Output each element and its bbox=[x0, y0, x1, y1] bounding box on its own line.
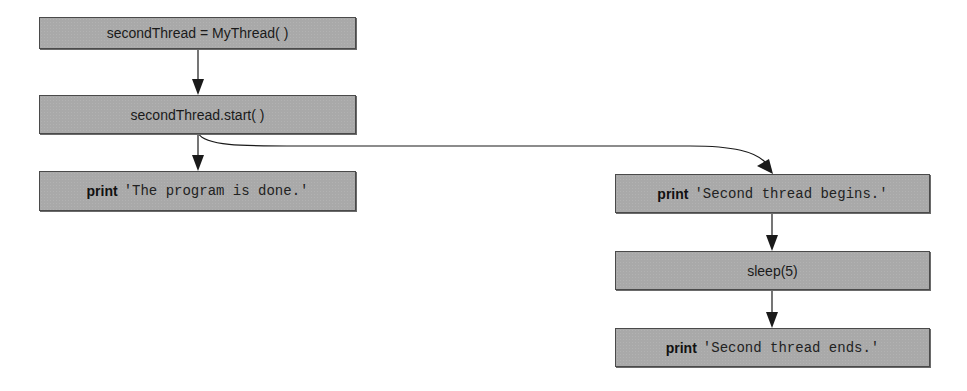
arrow-n5-n6 bbox=[766, 291, 778, 328]
node-text: sleep(5) bbox=[747, 263, 798, 279]
node-text: secondThread.start( ) bbox=[131, 107, 265, 123]
print-string: 'Second thread ends.' bbox=[703, 340, 879, 356]
print-keyword: print bbox=[657, 186, 688, 202]
arrow-n1-n2 bbox=[192, 49, 204, 95]
node-sleep: sleep(5) bbox=[615, 251, 930, 290]
node-print-thread-ends: print 'Second thread ends.' bbox=[615, 328, 930, 367]
node-print-program-done: print 'The program is done.' bbox=[39, 171, 356, 211]
node-start-thread: secondThread.start( ) bbox=[39, 95, 356, 134]
print-keyword: print bbox=[666, 340, 697, 356]
arrow-n2-n4-curved bbox=[198, 133, 773, 174]
arrow-n4-n5 bbox=[766, 214, 778, 251]
print-keyword: print bbox=[87, 183, 118, 199]
node-text: secondThread = MyThread( ) bbox=[107, 25, 289, 41]
node-print-thread-begins: print 'Second thread begins.' bbox=[615, 174, 930, 213]
arrow-n2-n3 bbox=[192, 134, 204, 171]
print-string: 'The program is done.' bbox=[124, 183, 309, 199]
node-create-thread: secondThread = MyThread( ) bbox=[39, 17, 356, 49]
print-string: 'Second thread begins.' bbox=[694, 186, 887, 202]
